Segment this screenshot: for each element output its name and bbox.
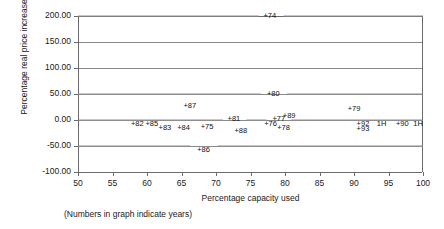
y-tick-label: 50.00 (16, 89, 71, 98)
data-point-label: +78 (277, 124, 290, 132)
figure-note: (Numbers in graph indicate years) (64, 209, 192, 219)
data-point-label: +84 (177, 124, 190, 132)
y-tick-label: 150.00 (16, 37, 71, 46)
data-point-label: +81 (228, 115, 241, 123)
data-point-label: +86 (197, 146, 210, 154)
y-tick-label: -100.00 (16, 167, 71, 176)
data-point-label: +79 (348, 105, 361, 113)
x-tick-mark (354, 172, 355, 176)
data-point-label: +88 (234, 127, 247, 135)
x-tick-label: 55 (98, 178, 128, 188)
y-tick-label: 0.00 (16, 115, 71, 124)
gridline (79, 16, 422, 17)
data-point-label: +87 (183, 102, 196, 110)
x-tick-label: 100 (408, 178, 438, 188)
gridline (79, 94, 422, 95)
x-tick-label: 50 (63, 178, 93, 188)
data-point-label: 1H (377, 120, 387, 128)
x-tick-mark (320, 172, 321, 176)
x-tick-mark (78, 172, 79, 176)
x-tick-label: 90 (339, 178, 369, 188)
data-point-label: 1H (413, 120, 423, 128)
x-tick-label: 70 (201, 178, 231, 188)
x-tick-mark (251, 172, 252, 176)
x-tick-label: 80 (270, 178, 300, 188)
y-tick-label: 100.00 (16, 63, 71, 72)
x-tick-mark (423, 172, 424, 176)
gridline (79, 146, 422, 147)
x-axis-title: Percentage capacity used (78, 193, 423, 203)
x-tick-label: 95 (374, 178, 404, 188)
gridline (79, 68, 422, 69)
x-tick-mark (285, 172, 286, 176)
y-tick-label: -50.00 (16, 141, 71, 150)
x-tick-mark (147, 172, 148, 176)
x-tick-mark (113, 172, 114, 176)
data-point-label: +90 (396, 120, 409, 128)
y-tick-mark (74, 146, 78, 147)
gridline (79, 42, 422, 43)
y-tick-label: 200.00 (16, 11, 71, 20)
plot-area (78, 16, 423, 172)
y-tick-mark (74, 94, 78, 95)
y-tick-mark (74, 68, 78, 69)
x-tick-label: 65 (167, 178, 197, 188)
x-tick-label: 60 (132, 178, 162, 188)
x-tick-mark (216, 172, 217, 176)
data-point-label: +75 (201, 123, 214, 131)
x-tick-label: 75 (236, 178, 266, 188)
data-point-label: +93 (357, 125, 370, 133)
chart-figure: Percentage real price increase 200.00150… (0, 0, 444, 229)
data-point-label: +85 (145, 120, 158, 128)
x-tick-mark (389, 172, 390, 176)
x-tick-mark (182, 172, 183, 176)
y-tick-mark (74, 16, 78, 17)
data-point-label: +80 (267, 90, 280, 98)
data-point-label: +83 (159, 124, 172, 132)
y-tick-mark (74, 42, 78, 43)
x-tick-label: 85 (305, 178, 335, 188)
data-point-label: +76 (264, 120, 277, 128)
data-point-label: +74 (263, 12, 276, 20)
data-point-label: +82 (131, 120, 144, 128)
y-tick-mark (74, 120, 78, 121)
